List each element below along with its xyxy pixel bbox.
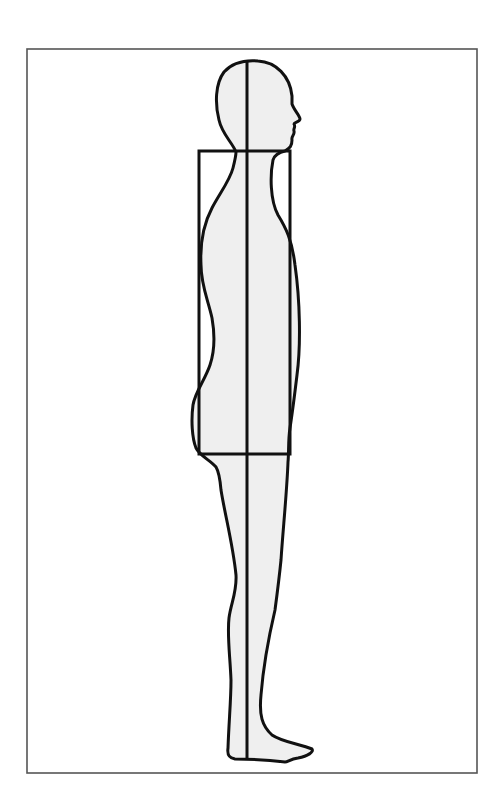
human-silhouette-icon bbox=[192, 61, 312, 762]
body-alignment-diagram bbox=[0, 0, 503, 812]
